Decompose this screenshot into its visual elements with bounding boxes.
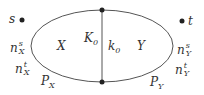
label-k0: k0	[108, 40, 120, 57]
label-p-x: PX	[41, 75, 55, 92]
point-s-dot	[20, 18, 25, 23]
bottom-node	[100, 80, 105, 85]
label-ns-y: nsY	[177, 42, 191, 58]
point-t-dot	[180, 19, 185, 24]
label-s: s	[9, 13, 15, 25]
label-nt-x: ntX	[15, 61, 29, 77]
label-region-x: X	[57, 40, 66, 52]
label-region-y: Y	[137, 40, 145, 52]
top-node	[100, 8, 105, 13]
label-t: t	[188, 15, 193, 27]
label-K0: K0	[84, 32, 98, 49]
label-p-y: PY	[150, 76, 163, 93]
label-ns-x: nsX	[10, 40, 24, 56]
diagram-canvas	[0, 0, 204, 95]
label-nt-y: ntY	[175, 62, 189, 78]
